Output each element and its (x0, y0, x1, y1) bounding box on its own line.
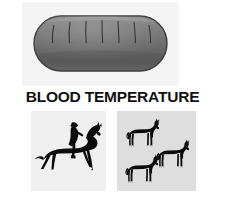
loaf-illustration-panel (22, 2, 179, 86)
three-horses-panel (117, 111, 196, 191)
horse-icon (125, 155, 158, 183)
horse-icon (156, 140, 189, 168)
figure-root: BLOOD TEMPERATURE (0, 0, 225, 199)
horse-icon (126, 119, 159, 147)
bread-loaf-icon (33, 15, 168, 72)
dressage-rider-panel (31, 111, 106, 191)
horse-and-rider-icon (31, 111, 106, 191)
figure-caption: BLOOD TEMPERATURE (0, 88, 225, 106)
